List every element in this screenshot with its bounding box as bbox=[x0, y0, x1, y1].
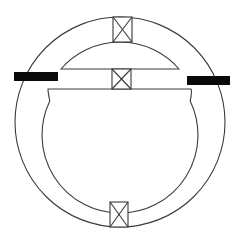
crossed-box-bottom bbox=[110, 202, 128, 227]
outer-ring bbox=[15, 17, 225, 227]
bar-right bbox=[187, 76, 230, 85]
bar-left bbox=[14, 72, 58, 81]
upper-segment bbox=[61, 42, 179, 69]
crossed-box-middle bbox=[112, 69, 131, 89]
ring-diagram bbox=[0, 0, 240, 238]
crossed-box-top bbox=[113, 17, 132, 42]
crossed-boxes bbox=[110, 17, 132, 227]
diagram-canvas bbox=[0, 0, 240, 238]
inner-chamber bbox=[42, 89, 198, 213]
